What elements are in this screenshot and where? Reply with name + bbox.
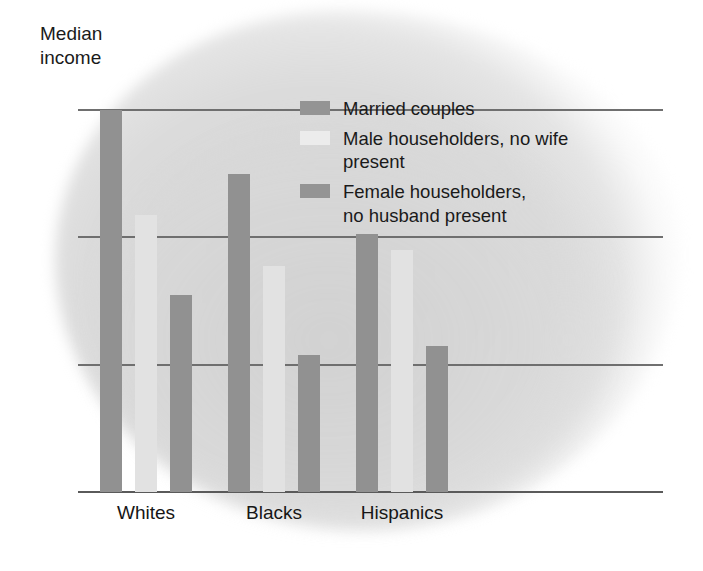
chart-container: Median income 6040200 WhitesBlacksHispan… [0,0,703,571]
bar [135,215,157,492]
bar [263,266,285,492]
x-category-label: Whites [117,502,175,524]
x-category-label: Hispanics [361,502,443,524]
bar [170,295,192,492]
bar [298,355,320,492]
bar [100,110,122,492]
legend-swatch-icon [300,131,330,145]
legend-item: Female householders, no husband present [300,180,630,226]
legend-swatch-icon [300,101,330,115]
x-category-label: Blacks [246,502,302,524]
bar [426,346,448,492]
bar [228,174,250,492]
legend-item: Married couples [300,97,630,120]
legend-item-label: Male householders, no wife present [343,127,630,173]
legend-item-label: Female householders, no husband present [343,180,526,226]
bar [391,250,413,492]
legend-item: Male householders, no wife present [300,127,630,173]
legend-item-label: Married couples [343,97,475,120]
chart-legend: Married couples Male householders, no wi… [300,97,630,234]
bar [356,234,378,492]
legend-swatch-icon [300,184,330,198]
y-axis-title: Median income [40,22,102,71]
